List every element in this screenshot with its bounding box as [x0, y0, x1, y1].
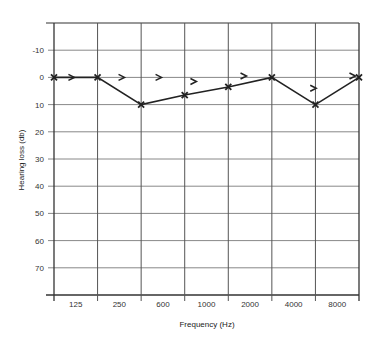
- x-tick-label: 250: [113, 300, 127, 309]
- horizontal-gridlines: [46, 23, 359, 295]
- arrow-marker-icon: [241, 73, 247, 79]
- x-tick-label: 600: [156, 300, 170, 309]
- y-axis-title: Hearing loss (db): [17, 129, 26, 190]
- vertical-gridlines: [54, 23, 359, 301]
- y-tick-label: 60: [35, 237, 44, 246]
- arrow-marker-icon: [190, 78, 196, 84]
- x-tick-label: 8000: [328, 300, 346, 309]
- y-tick-label: 0: [40, 73, 45, 82]
- y-tick-label: 40: [35, 182, 44, 191]
- arrow-marker-icon: [349, 73, 355, 79]
- y-tick-label: 20: [35, 128, 44, 137]
- y-tick-label: 10: [35, 101, 44, 110]
- x-axis-title: Frequency (Hz): [179, 320, 234, 329]
- x-tick-label: 4000: [285, 300, 303, 309]
- y-axis-ticks: -10010203040506070: [32, 46, 44, 273]
- x-tick-label: 2000: [241, 300, 259, 309]
- y-tick-label: -10: [32, 46, 44, 55]
- x-tick-label: 125: [69, 300, 83, 309]
- air-conduction-polyline: [54, 77, 359, 104]
- air-conduction-line: [54, 77, 359, 104]
- bone-conduction-markers: [68, 73, 355, 91]
- y-tick-label: 50: [35, 209, 44, 218]
- x-tick-label: 1000: [198, 300, 216, 309]
- audiogram-chart: -10010203040506070 125250600100020004000…: [0, 0, 380, 341]
- y-tick-label: 70: [35, 264, 44, 273]
- y-tick-label: 30: [35, 155, 44, 164]
- x-axis-ticks: 1252506001000200040008000: [69, 300, 347, 309]
